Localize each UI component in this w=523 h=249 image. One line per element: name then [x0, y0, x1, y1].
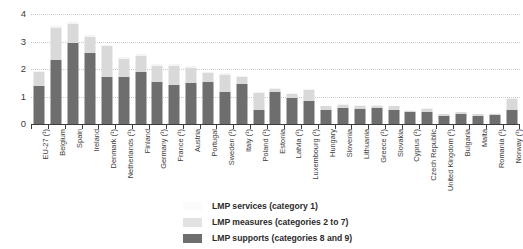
bar-group[interactable]: [183, 14, 200, 124]
bar-group[interactable]: [351, 14, 368, 124]
legend-item[interactable]: LMP services (category 1): [183, 199, 483, 213]
x-category-label: Portugal: [211, 129, 218, 157]
bar-segment: [270, 92, 281, 124]
x-category-label: Finland: [144, 129, 151, 153]
bar-segment: [51, 28, 62, 60]
bar-segment: [253, 93, 264, 110]
bar-group[interactable]: [132, 14, 149, 124]
bar-segment: [337, 108, 348, 125]
bar-group[interactable]: [216, 14, 233, 124]
bar-group[interactable]: [453, 14, 470, 124]
stacked-bar: [118, 57, 129, 124]
stacked-bar: [51, 26, 62, 124]
bar-group[interactable]: [469, 14, 486, 124]
stacked-bar: [304, 89, 315, 124]
bar-group[interactable]: [82, 14, 99, 124]
bar-group[interactable]: [503, 14, 520, 124]
x-category-label: Czech Republic: [430, 129, 437, 181]
bar-group[interactable]: [385, 14, 402, 124]
bar-group[interactable]: [98, 14, 115, 124]
bar-segment: [101, 46, 112, 76]
x-category-label: Sweden (¹): [228, 129, 235, 165]
bar-segment: [203, 73, 214, 82]
y-tick-label: 3: [21, 37, 26, 47]
x-category-label: France (¹): [177, 129, 184, 161]
stacked-bar: [253, 92, 264, 124]
bar-group[interactable]: [284, 14, 301, 124]
bar-segment: [135, 72, 146, 124]
y-tick-label: 2: [21, 64, 26, 74]
x-category-label: Norway (¹): [515, 129, 522, 164]
stacked-bar: [489, 113, 500, 124]
bar-group[interactable]: [149, 14, 166, 124]
bar-group[interactable]: [166, 14, 183, 124]
chart-legend: LMP services (category 1)LMP measures (c…: [183, 199, 483, 247]
x-category-label: Slovakia: [397, 129, 404, 157]
bar-group[interactable]: [402, 14, 419, 124]
bar-group[interactable]: [436, 14, 453, 124]
stacked-bar: [186, 66, 197, 124]
bar-series-group: [31, 14, 520, 124]
stacked-bar: [169, 64, 180, 124]
bar-group[interactable]: [200, 14, 217, 124]
bar-group[interactable]: [267, 14, 284, 124]
x-category-label: Netherlands (¹): [127, 129, 134, 178]
y-tick-label: 1: [21, 92, 26, 102]
legend-swatch: [183, 202, 202, 211]
bar-segment: [236, 77, 247, 84]
legend-label: LMP measures (categories 2 to 7): [212, 217, 348, 227]
stacked-bar: [68, 22, 79, 124]
x-category-label: Malta: [481, 129, 488, 147]
bar-segment: [388, 110, 399, 124]
x-category-label: Austria: [194, 129, 201, 152]
bar-group[interactable]: [31, 14, 48, 124]
bar-segment: [354, 109, 365, 124]
bar-group[interactable]: [250, 14, 267, 124]
bar-segment: [405, 112, 416, 124]
bar-segment: [219, 75, 230, 92]
legend-item[interactable]: LMP measures (categories 2 to 7): [183, 215, 483, 229]
x-category-label: Greece (¹): [380, 129, 387, 163]
bar-segment: [68, 43, 79, 124]
x-category-label: EU-27 (¹): [42, 129, 49, 159]
stacked-bar: [455, 112, 466, 124]
bar-group[interactable]: [368, 14, 385, 124]
bar-segment: [186, 83, 197, 124]
bar-segment: [85, 37, 96, 54]
bar-group[interactable]: [48, 14, 65, 124]
x-category-label: Ireland: [93, 129, 100, 152]
bar-segment: [253, 110, 264, 124]
bar-group[interactable]: [419, 14, 436, 124]
bar-segment: [118, 59, 129, 77]
bar-group[interactable]: [318, 14, 335, 124]
bar-segment: [135, 56, 146, 73]
y-axis-labels: 01234: [0, 14, 26, 124]
bar-segment: [506, 110, 517, 124]
stacked-bar: [34, 71, 45, 124]
bar-group[interactable]: [335, 14, 352, 124]
stacked-bar: [219, 73, 230, 124]
bar-segment: [169, 66, 180, 85]
stacked-bar: [152, 64, 163, 124]
legend-item[interactable]: LMP supports (categories 8 and 9): [183, 231, 483, 245]
x-category-label: Estonia: [279, 129, 286, 154]
bar-group[interactable]: [301, 14, 318, 124]
legend-label: LMP supports (categories 8 and 9): [212, 233, 352, 243]
stacked-bar: [203, 72, 214, 124]
bar-segment: [203, 82, 214, 124]
bar-segment: [51, 60, 62, 124]
bar-segment: [186, 68, 197, 83]
x-category-label: Hungary: [329, 129, 336, 157]
bar-group[interactable]: [486, 14, 503, 124]
bar-segment: [506, 99, 517, 109]
legend-swatch: [183, 234, 202, 243]
bar-group[interactable]: [65, 14, 82, 124]
bar-group[interactable]: [115, 14, 132, 124]
bar-segment: [287, 98, 298, 124]
stacked-bar: [439, 114, 450, 124]
bar-group[interactable]: [233, 14, 250, 124]
legend-swatch: [183, 218, 202, 227]
bar-segment: [68, 24, 79, 43]
bar-segment: [152, 66, 163, 83]
bar-segment: [422, 112, 433, 124]
